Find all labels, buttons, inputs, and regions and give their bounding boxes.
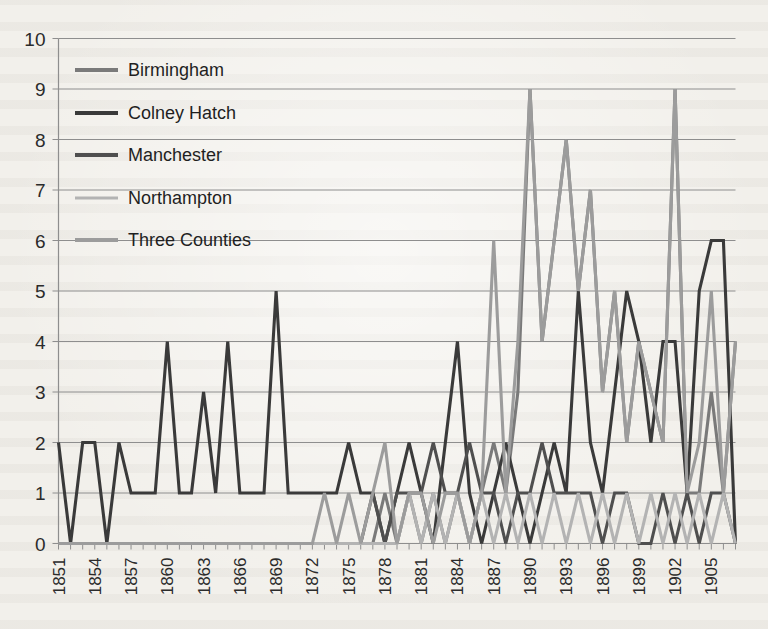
legend-label-three-counties: Three Counties (128, 230, 251, 250)
y-axis: 012345678910 (24, 29, 58, 555)
x-tick-label: 1857 (122, 558, 141, 596)
legend-label-colney-hatch: Colney Hatch (128, 103, 236, 123)
x-tick-label: 1905 (702, 558, 721, 596)
x-tick-label: 1854 (86, 558, 105, 596)
x-tick-label: 1872 (303, 558, 322, 596)
x-tick-label: 1860 (158, 558, 177, 596)
x-tick-label: 1863 (195, 558, 214, 596)
line-chart: 012345678910 185118541857186018631866186… (0, 0, 768, 629)
x-tick-label: 1851 (50, 558, 69, 596)
y-tick-label: 1 (35, 483, 46, 504)
x-tick-label: 1902 (666, 558, 685, 596)
x-tick-label: 1890 (521, 558, 540, 596)
y-tick-label: 10 (24, 29, 45, 50)
y-tick-label: 0 (35, 534, 46, 555)
x-tick-label: 1881 (412, 558, 431, 596)
y-tick-label: 8 (35, 130, 46, 151)
x-tick-label: 1896 (594, 558, 613, 596)
y-tick-label: 4 (35, 332, 46, 353)
x-tick-label: 1869 (267, 558, 286, 596)
legend-label-manchester: Manchester (128, 145, 222, 165)
x-tick-label: 1878 (376, 558, 395, 596)
y-tick-label: 5 (35, 281, 46, 302)
legend-label-northampton: Northampton (128, 188, 232, 208)
x-tick-label: 1875 (340, 558, 359, 596)
y-tick-label: 3 (35, 382, 46, 403)
chart-canvas: 012345678910 185118541857186018631866186… (0, 0, 768, 629)
legend-label-birmingham: Birmingham (128, 60, 224, 80)
x-tick-label: 1884 (448, 558, 467, 596)
y-tick-label: 6 (35, 231, 46, 252)
x-axis: 1851185418571860186318661869187218751878… (50, 544, 736, 596)
x-tick-label: 1866 (231, 558, 250, 596)
y-tick-label: 7 (35, 180, 46, 201)
x-tick-label: 1899 (630, 558, 649, 596)
x-tick-label: 1893 (557, 558, 576, 596)
y-tick-label: 9 (35, 79, 46, 100)
y-tick-label: 2 (35, 433, 46, 454)
x-tick-label: 1887 (485, 558, 504, 596)
